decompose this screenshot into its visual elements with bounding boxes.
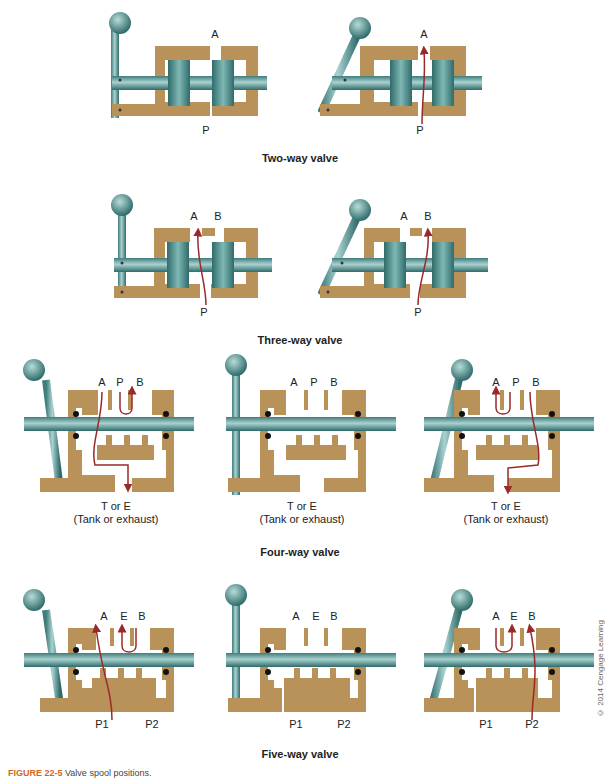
port-label-p2: P2 bbox=[337, 718, 350, 730]
port-label-b: B bbox=[214, 210, 221, 222]
port-label-p: P bbox=[512, 376, 519, 388]
port-label-p1: P1 bbox=[289, 718, 302, 730]
four-way-valve-center-diagram: A P B bbox=[220, 350, 400, 500]
four-way-valve-right-diagram: A P B bbox=[420, 350, 607, 500]
port-label-e: E bbox=[120, 610, 127, 622]
port-label-a: A bbox=[400, 210, 408, 222]
port-label-p2: P2 bbox=[525, 718, 538, 730]
valve-illustration: A E B P1 P2 bbox=[20, 580, 200, 730]
port-label-p: P bbox=[116, 376, 123, 388]
tank-label-1: T or E (Tank or exhaust) bbox=[56, 500, 176, 526]
port-label-a: A bbox=[290, 376, 298, 388]
valve-illustration: A P B bbox=[420, 350, 607, 500]
two-way-valve-open-diagram: A P bbox=[318, 8, 498, 138]
valve-closed-illustration: A P bbox=[100, 8, 280, 138]
port-label-a: A bbox=[98, 376, 106, 388]
port-label-b: B bbox=[532, 376, 539, 388]
port-label-t-or-e: T or E bbox=[242, 500, 362, 513]
valve-open-illustration: A P bbox=[318, 8, 498, 138]
valve-illustration: A E B P1 P2 bbox=[420, 580, 600, 730]
valve-illustration: A B P bbox=[110, 190, 290, 320]
five-way-valve-right-diagram: A E B P1 P2 bbox=[420, 580, 600, 730]
port-label-a: A bbox=[292, 610, 300, 622]
three-way-valve-a-diagram: A B P bbox=[110, 190, 290, 320]
tank-note: (Tank or exhaust) bbox=[242, 513, 362, 526]
tank-note: (Tank or exhaust) bbox=[56, 513, 176, 526]
port-label-p: P bbox=[416, 124, 423, 136]
two-way-valve-closed-diagram: A P bbox=[100, 8, 280, 138]
port-label-b: B bbox=[424, 210, 431, 222]
port-label-e: E bbox=[312, 610, 319, 622]
section-title-two-way: Two-way valve bbox=[200, 152, 400, 164]
tank-note: (Tank or exhaust) bbox=[446, 513, 566, 526]
port-label-p: P bbox=[202, 124, 209, 136]
copyright-notice: © 2014 Cengage Learning bbox=[596, 620, 605, 717]
port-label-b: B bbox=[330, 610, 337, 622]
port-label-t-or-e: T or E bbox=[446, 500, 566, 513]
three-way-valve-b-diagram: A B P bbox=[318, 190, 498, 320]
tank-label-3: T or E (Tank or exhaust) bbox=[446, 500, 566, 526]
port-label-p: P bbox=[414, 306, 421, 318]
port-label-a: A bbox=[492, 376, 500, 388]
valve-illustration: A B P bbox=[318, 190, 498, 320]
port-label-e: E bbox=[510, 610, 517, 622]
four-way-valve-left-diagram: A P B bbox=[20, 350, 200, 500]
figure-caption-text: Valve spool positions. bbox=[65, 768, 151, 778]
section-title-three-way: Three-way valve bbox=[200, 334, 400, 346]
port-label-a: A bbox=[190, 210, 198, 222]
port-label-a: A bbox=[211, 28, 219, 40]
port-label-p: P bbox=[310, 376, 317, 388]
port-label-a: A bbox=[100, 610, 108, 622]
valve-illustration: A P B bbox=[220, 350, 400, 500]
port-label-p2: P2 bbox=[145, 718, 158, 730]
port-label-b: B bbox=[528, 610, 535, 622]
section-title-five-way: Five-way valve bbox=[200, 748, 400, 760]
port-label-p: P bbox=[200, 306, 207, 318]
port-label-p1: P1 bbox=[479, 718, 492, 730]
port-label-b: B bbox=[330, 376, 337, 388]
section-title-four-way: Four-way valve bbox=[200, 546, 400, 558]
port-label-b: B bbox=[138, 610, 145, 622]
valve-illustration: A E B P1 P2 bbox=[220, 580, 400, 730]
valve-illustration: A P B bbox=[20, 350, 200, 500]
five-way-valve-center-diagram: A E B P1 P2 bbox=[220, 580, 400, 730]
port-label-a: A bbox=[492, 610, 500, 622]
figure-caption: FIGURE 22-5 Valve spool positions. bbox=[8, 768, 151, 778]
port-label-a: A bbox=[420, 28, 428, 40]
port-label-p1: P1 bbox=[95, 718, 108, 730]
figure-number: FIGURE 22-5 bbox=[8, 768, 63, 778]
five-way-valve-left-diagram: A E B P1 P2 bbox=[20, 580, 200, 730]
port-label-t-or-e: T or E bbox=[56, 500, 176, 513]
port-label-b: B bbox=[136, 376, 143, 388]
tank-label-2: T or E (Tank or exhaust) bbox=[242, 500, 362, 526]
